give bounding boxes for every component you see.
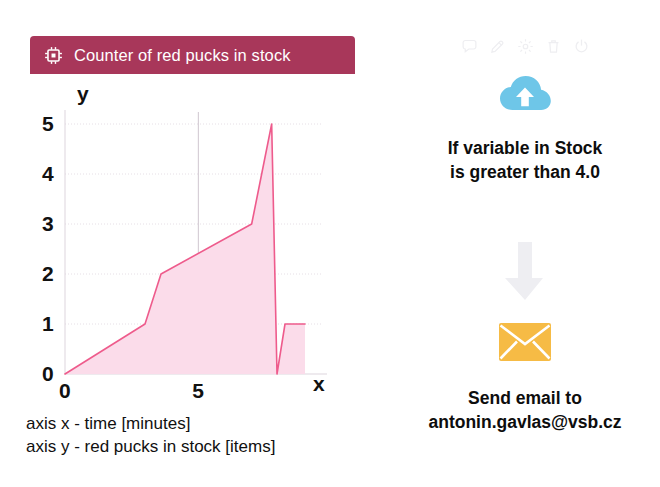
card-title: Counter of red pucks in stock <box>74 46 291 65</box>
arrow-down-icon-wrap <box>390 240 660 302</box>
axis-caption-block: axis x - time [minutes] axis y - red puc… <box>26 412 376 459</box>
settings-icon[interactable] <box>517 38 534 55</box>
cloud-upload-icon <box>498 74 552 114</box>
chart-panel: Counter of red pucks in stock y x 012345… <box>0 0 390 487</box>
rule-flow-panel: If variable in Stock is greater than 4.0… <box>390 0 660 487</box>
power-icon[interactable] <box>573 38 590 55</box>
delete-icon[interactable] <box>545 38 562 55</box>
caption-y-axis: axis y - red pucks in stock [items] <box>26 435 376 458</box>
y-tick-label: 2 <box>42 263 54 284</box>
chart-svg <box>30 82 355 412</box>
action-line-1: Send email to <box>390 386 660 410</box>
rule-toolbar <box>390 38 660 55</box>
condition-text: If variable in Stock is greater than 4.0 <box>390 136 660 184</box>
y-tick-label: 3 <box>42 213 54 234</box>
action-text: Send email to antonin.gavlas@vsb.cz <box>390 386 660 434</box>
y-tick-label: 5 <box>42 113 54 134</box>
y-tick-label: 0 <box>42 363 54 384</box>
envelope-icon-wrap <box>390 322 660 362</box>
y-tick-label: 4 <box>42 163 54 184</box>
condition-line-1: If variable in Stock <box>390 136 660 160</box>
condition-line-2: is greater than 4.0 <box>390 160 660 184</box>
chip-icon <box>44 46 63 65</box>
cloud-upload-icon-wrap <box>390 74 660 114</box>
arrow-down-icon <box>503 240 547 302</box>
x-tick-label: 0 <box>59 380 71 401</box>
card-header: Counter of red pucks in stock <box>30 36 355 74</box>
x-tick-label: 5 <box>192 380 204 401</box>
comment-icon[interactable] <box>461 38 478 55</box>
y-tick-label: 1 <box>42 313 54 334</box>
action-line-2: antonin.gavlas@vsb.cz <box>390 410 660 434</box>
envelope-icon <box>498 322 552 362</box>
chart-plot-area: y x 01234505 <box>30 82 355 412</box>
edit-icon[interactable] <box>489 38 506 55</box>
caption-x-axis: axis x - time [minutes] <box>26 412 376 435</box>
series-area <box>65 124 305 374</box>
